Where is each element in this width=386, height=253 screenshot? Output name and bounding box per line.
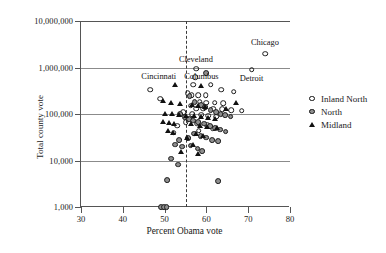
data-point (223, 106, 229, 111)
x-tick-label: 60 (202, 214, 211, 224)
y-tick-label: 100,000 (45, 110, 73, 119)
x-tick-label: 70 (244, 214, 253, 224)
filled-triangle-icon (306, 122, 318, 127)
x-tick-label: 30 (77, 214, 86, 224)
x-tick-label: 80 (286, 214, 295, 224)
x-tick (206, 207, 207, 213)
data-point (204, 124, 210, 129)
data-point (205, 114, 211, 119)
city-label-detroit: Detroit (240, 74, 264, 83)
data-point (168, 156, 174, 162)
x-tick (81, 207, 82, 213)
data-point (173, 142, 179, 148)
data-point (197, 123, 203, 128)
y-tick-label: 10,000 (49, 156, 73, 165)
data-point (170, 129, 176, 134)
data-point (162, 110, 168, 115)
x-axis-title: Percent Obama vote (80, 226, 289, 236)
y-tick (75, 21, 81, 22)
y-tick-label: 1,000 (54, 203, 73, 212)
data-point (164, 177, 170, 183)
data-point (249, 67, 255, 73)
data-point (262, 51, 268, 57)
data-point (188, 121, 194, 126)
data-point (203, 93, 209, 99)
city-label-cleveland: Cleveland (179, 55, 213, 64)
x-tick (123, 207, 124, 213)
city-label-chicago: Chicago (251, 38, 279, 47)
data-point (212, 115, 218, 120)
data-point (202, 104, 208, 109)
data-point (198, 114, 204, 119)
data-point (239, 108, 245, 114)
data-point (218, 87, 224, 93)
y-axis-title: Total county vote (35, 94, 45, 158)
legend-item-midland[interactable]: Midland (306, 118, 367, 131)
open-circle-icon (306, 96, 318, 102)
data-point (208, 82, 214, 88)
data-point (228, 114, 234, 120)
y-tick (75, 161, 81, 162)
x-tick (290, 207, 291, 213)
data-point (195, 93, 201, 99)
legend-label: Midland (321, 120, 352, 130)
data-point (198, 83, 204, 88)
data-point (171, 121, 177, 126)
data-point (231, 89, 237, 95)
y-tick (75, 68, 81, 69)
data-point (169, 111, 175, 116)
data-point (195, 103, 201, 108)
data-point (195, 151, 201, 156)
x-tick-label: 50 (160, 214, 169, 224)
filled-circle-icon (306, 109, 318, 115)
data-point (175, 162, 181, 168)
data-point (190, 82, 196, 88)
data-point (212, 100, 218, 106)
data-point (183, 113, 189, 118)
data-point (229, 108, 235, 114)
data-point (176, 112, 182, 117)
data-point (177, 101, 183, 106)
data-point (233, 100, 239, 105)
data-point (200, 133, 206, 138)
city-label-cincinnati: Cincinnati (141, 72, 176, 81)
data-point (215, 138, 221, 144)
data-point (190, 141, 196, 146)
x-tick-label: 40 (119, 214, 128, 224)
data-point (187, 93, 193, 99)
data-point (160, 98, 166, 103)
y-tick-label: 10,000,000 (34, 17, 73, 26)
plot-area: 1,00010,000100,0001,000,00010,000,000 30… (80, 21, 289, 207)
legend-label: Inland North (321, 94, 367, 104)
data-point (164, 204, 170, 210)
data-point (191, 113, 197, 118)
legend-label: North (321, 107, 342, 117)
y-tick-label: 1,000,000 (39, 63, 73, 72)
data-point (193, 66, 199, 72)
data-point (172, 81, 178, 86)
x-tick (248, 207, 249, 213)
data-point (168, 100, 174, 105)
data-point (147, 87, 153, 93)
data-point (214, 125, 220, 130)
y-tick (75, 114, 81, 115)
data-point (215, 178, 221, 184)
data-point (178, 149, 184, 154)
data-point (223, 129, 229, 135)
data-point (184, 135, 190, 140)
city-label-columbus: Columbus (184, 72, 218, 81)
legend-item-inland-north[interactable]: Inland North (306, 92, 367, 105)
data-point (193, 130, 199, 135)
legend: Inland NorthNorthMidland (306, 92, 367, 131)
scatter-plot-figure: Total county vote 1,00010,000100,0001,00… (0, 0, 386, 253)
legend-item-north[interactable]: North (306, 105, 367, 118)
